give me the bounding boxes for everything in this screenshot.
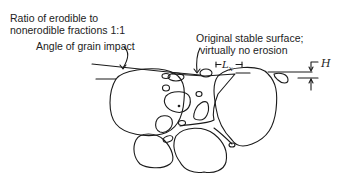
small-grain-3 <box>196 92 202 97</box>
lower-grain-left <box>134 134 173 168</box>
large-grain-right <box>214 67 277 146</box>
ratio-label-line2: nonerodible fractions 1:1 <box>10 24 125 36</box>
small-grain-6 <box>179 121 186 126</box>
original-label-line2: virtually no erosion <box>196 44 303 56</box>
small-grain-7 <box>162 134 173 143</box>
small-grain-2 <box>164 92 190 113</box>
angle-label: Angle of grain impact <box>36 40 135 52</box>
lx-label: Lx <box>222 59 233 75</box>
ratio-label-line1: Ratio of erodible to <box>10 12 125 24</box>
h-label: H <box>321 58 331 70</box>
lower-grain-center <box>174 128 227 172</box>
erodible-zone-outline <box>172 74 235 126</box>
large-grain-left <box>110 69 184 136</box>
original-surface-label: Original stable surface; virtually no er… <box>196 32 303 56</box>
surface-grain-right <box>274 73 288 83</box>
ratio-label: Ratio of erodible to nonerodible fractio… <box>10 12 125 36</box>
original-label-line1: Original stable surface; <box>196 32 303 44</box>
lx-subscript: x <box>229 65 233 73</box>
small-grain-4 <box>194 102 209 120</box>
lx-symbol: L <box>222 59 229 70</box>
small-grain-5 <box>156 116 173 133</box>
grain-dot <box>178 105 180 107</box>
small-grain-1 <box>163 85 170 91</box>
